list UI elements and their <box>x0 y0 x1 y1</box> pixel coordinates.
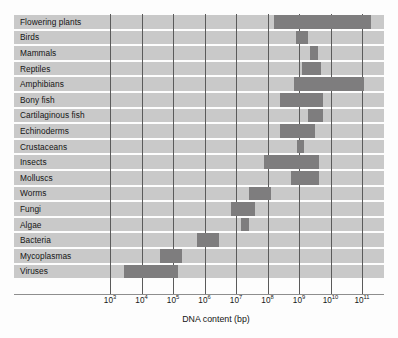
category-label: Birds <box>20 32 39 42</box>
category-row: Reptiles <box>14 62 384 76</box>
category-label: Worms <box>20 188 46 198</box>
category-row: Molluscs <box>14 171 384 185</box>
category-label: Flowering plants <box>20 17 81 27</box>
tick-label: 104 <box>135 296 147 305</box>
category-row: Fungi <box>14 202 384 216</box>
tick-label: 1011 <box>354 296 369 305</box>
category-label: Mycoplasmas <box>20 251 71 261</box>
category-label: Algae <box>20 220 41 230</box>
category-row: Amphibians <box>14 77 384 91</box>
tick-label: 105 <box>167 296 179 305</box>
category-row: Echinoderms <box>14 124 384 138</box>
x-axis-tick-labels: 10310410510610710810910101011 <box>14 296 384 312</box>
category-row: Insects <box>14 155 384 169</box>
category-label: Molluscs <box>20 173 53 183</box>
category-row: Algae <box>14 218 384 232</box>
tick-label: 106 <box>198 296 210 305</box>
category-row: Mammals <box>14 46 384 60</box>
category-label: Viruses <box>20 266 48 276</box>
tick-label: 1010 <box>323 296 339 305</box>
category-label: Cartilaginous fish <box>20 110 85 120</box>
plot-area: Flowering plantsBirdsMammalsReptilesAmph… <box>14 14 384 295</box>
category-label: Bony fish <box>20 95 55 105</box>
x-axis-baseline <box>14 294 384 295</box>
category-row: Mycoplasmas <box>14 249 384 263</box>
category-label: Crustaceans <box>20 142 67 152</box>
category-row: Flowering plants <box>14 15 384 29</box>
category-row: Crustaceans <box>14 140 384 154</box>
tick-label: 103 <box>104 296 116 305</box>
tick-label: 109 <box>293 296 305 305</box>
category-label: Insects <box>20 157 47 167</box>
tick-label: 107 <box>230 296 242 305</box>
category-label: Reptiles <box>20 64 50 74</box>
category-label: Mammals <box>20 48 56 58</box>
category-row: Cartilaginous fish <box>14 109 384 123</box>
x-axis-title: DNA content (bp) <box>0 314 398 324</box>
category-label: Fungi <box>20 204 41 214</box>
category-row: Worms <box>14 187 384 201</box>
category-label: Amphibians <box>20 79 64 89</box>
tick-label: 108 <box>261 296 273 305</box>
category-row: Birds <box>14 31 384 45</box>
dna-content-figure: Flowering plantsBirdsMammalsReptilesAmph… <box>0 0 398 338</box>
category-row: Bacteria <box>14 233 384 247</box>
category-row: Bony fish <box>14 93 384 107</box>
category-label: Bacteria <box>20 235 51 245</box>
category-row: Viruses <box>14 265 384 279</box>
category-label: Echinoderms <box>20 126 69 136</box>
x-axis-title-text: DNA content (bp) <box>148 314 249 324</box>
